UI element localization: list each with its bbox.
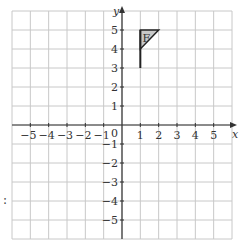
svg-text:x: x xyxy=(232,128,239,141)
svg-text:0: 0 xyxy=(111,127,118,140)
svg-text:−4: −4 xyxy=(102,195,118,208)
svg-text:−3: −3 xyxy=(57,129,73,142)
svg-text:2: 2 xyxy=(111,81,118,94)
svg-text:−4: −4 xyxy=(39,129,55,142)
svg-text:−5: −5 xyxy=(20,129,36,142)
axes xyxy=(12,6,237,239)
svg-text:F: F xyxy=(143,32,151,45)
svg-text:−2: −2 xyxy=(102,157,118,170)
coordinate-grid: −5−4−3−2−11234554321−1−2−3−4−50xy F xyxy=(0,0,241,250)
svg-text:−5: −5 xyxy=(102,214,118,227)
svg-text:−2: −2 xyxy=(75,129,91,142)
svg-text:1: 1 xyxy=(137,129,144,142)
svg-text:4: 4 xyxy=(192,129,199,142)
svg-text:2: 2 xyxy=(155,129,162,142)
svg-text:5: 5 xyxy=(210,129,217,142)
svg-text:−3: −3 xyxy=(102,176,118,189)
svg-text:1: 1 xyxy=(111,100,118,113)
side-colon: : xyxy=(3,193,7,207)
svg-text:3: 3 xyxy=(111,62,118,75)
svg-text:y: y xyxy=(112,5,120,18)
tick-labels: −5−4−3−2−11234554321−1−2−3−4−50xy xyxy=(20,5,239,227)
svg-text:4: 4 xyxy=(111,43,118,56)
svg-text:5: 5 xyxy=(111,24,118,37)
svg-text:3: 3 xyxy=(174,129,181,142)
